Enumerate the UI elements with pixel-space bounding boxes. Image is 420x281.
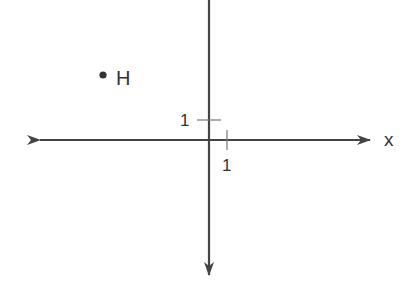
point-h-dot: [99, 71, 106, 78]
point-h-label: H: [116, 68, 130, 88]
x-axis-label: x: [384, 130, 394, 149]
x-tick-label: 1: [222, 157, 231, 174]
coordinate-plane: [0, 0, 420, 281]
y-tick-label: 1: [180, 112, 189, 129]
